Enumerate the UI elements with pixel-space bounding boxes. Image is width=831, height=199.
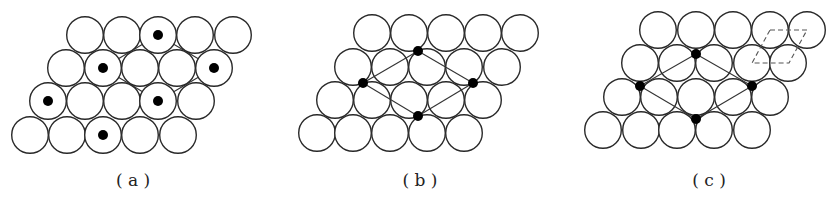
atom-circle bbox=[734, 112, 771, 149]
interstitial-site-dot bbox=[468, 78, 478, 88]
atom-circle bbox=[372, 115, 409, 152]
interstitial-site-dot bbox=[691, 49, 701, 59]
atom-circle bbox=[446, 115, 483, 152]
atom-circle bbox=[484, 49, 521, 86]
atom-circle bbox=[122, 50, 159, 87]
atom-circle bbox=[335, 115, 372, 152]
atom-circle bbox=[391, 15, 428, 52]
interstitial-site-dot bbox=[691, 114, 701, 124]
atom-circle bbox=[67, 17, 104, 54]
atom-circle bbox=[428, 15, 465, 52]
interstitial-site-dot bbox=[98, 130, 108, 140]
atom-circle bbox=[465, 15, 502, 52]
atom-circle bbox=[678, 12, 715, 49]
panel-a-diagram bbox=[12, 17, 252, 154]
atom-circle bbox=[67, 83, 104, 120]
atom-circle bbox=[354, 15, 391, 52]
panel-a-caption: ( a ) bbox=[116, 170, 150, 190]
atom-circle bbox=[12, 117, 49, 154]
atom-circle bbox=[428, 82, 465, 119]
atom-circle bbox=[604, 79, 641, 116]
atom-circle bbox=[317, 82, 354, 119]
atom-circle bbox=[502, 15, 539, 52]
atom-circle bbox=[177, 17, 214, 54]
panel-b-caption: ( b ) bbox=[403, 170, 438, 190]
atom-circle bbox=[622, 45, 659, 82]
panel-c-diagram bbox=[585, 12, 826, 149]
atom-circle bbox=[659, 45, 696, 82]
atom-circle bbox=[160, 117, 197, 154]
atom-circle bbox=[354, 82, 391, 119]
atom-circle bbox=[104, 17, 141, 54]
interstitial-site-dot bbox=[413, 111, 423, 121]
atom-circle bbox=[696, 112, 733, 149]
atom-circle bbox=[159, 50, 196, 87]
interstitial-site-dot bbox=[747, 81, 757, 91]
atom-circle bbox=[409, 115, 446, 152]
panel-b-diagram bbox=[299, 15, 539, 152]
atom-circle bbox=[48, 50, 85, 87]
atom-circle bbox=[215, 17, 252, 54]
atom-circle bbox=[696, 45, 733, 82]
atom-circle bbox=[659, 112, 696, 149]
atom-circle bbox=[623, 112, 660, 149]
atom-circle bbox=[49, 117, 86, 154]
atom-circle bbox=[752, 79, 789, 116]
atom-circle bbox=[585, 112, 622, 149]
atom-circle bbox=[715, 12, 752, 49]
atom-circle bbox=[465, 82, 502, 119]
interstitial-site-dot bbox=[153, 96, 163, 106]
interstitial-site-dot bbox=[413, 46, 423, 56]
atom-circle bbox=[640, 12, 677, 49]
interstitial-site-dot bbox=[43, 96, 53, 106]
interstitial-site-dot bbox=[358, 78, 368, 88]
atom-circle bbox=[104, 83, 141, 120]
interstitial-site-dot bbox=[209, 63, 219, 73]
interstitial-site-dot bbox=[153, 30, 163, 40]
atom-circle bbox=[122, 117, 159, 154]
atom-circle bbox=[299, 115, 336, 152]
atom-circle bbox=[678, 79, 715, 116]
panel-c-caption: ( c ) bbox=[692, 170, 726, 190]
interstitial-site-dot bbox=[635, 81, 645, 91]
interstitial-site-dot bbox=[98, 63, 108, 73]
atom-circle bbox=[178, 83, 215, 120]
